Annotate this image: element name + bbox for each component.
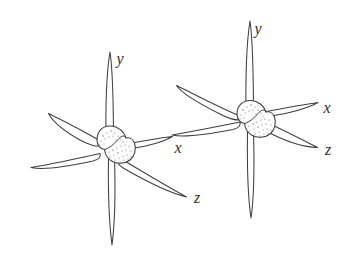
left-hub-outline <box>97 126 135 163</box>
right-y-negative-arm <box>247 131 254 218</box>
right-origin-hub <box>237 100 275 137</box>
left-axis-label-x: x <box>173 139 181 156</box>
coordinate-axes-illustration: y x z <box>0 0 357 264</box>
left-axis-label-y: y <box>114 50 124 68</box>
left-x-negative-arm <box>31 154 100 169</box>
left-y-negative-arm <box>108 157 115 245</box>
left-axis-label-z: z <box>193 189 201 206</box>
right-x-negative-arm <box>172 122 240 136</box>
right-axis-label-x: x <box>322 99 330 116</box>
left-origin-hub <box>97 126 135 163</box>
right-axis-label-z: z <box>324 141 332 158</box>
right-axis-label-y: y <box>252 20 262 38</box>
right-z-negative-arm <box>177 86 244 120</box>
left-z-negative-arm <box>49 114 105 146</box>
figure-canvas: y x z <box>0 0 357 264</box>
left-z-positive-arm <box>118 159 187 198</box>
right-hub-outline <box>237 100 275 137</box>
left-coordinate-system: y x z <box>31 50 201 245</box>
